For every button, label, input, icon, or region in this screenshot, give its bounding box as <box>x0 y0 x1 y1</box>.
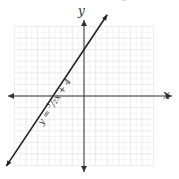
coordinate-plane <box>0 0 179 179</box>
arrow-up-icon <box>81 20 87 26</box>
x-axis-label: x <box>163 88 170 102</box>
arrow-down-icon <box>81 166 87 172</box>
arrow-left-icon <box>8 93 14 99</box>
y-axis-label: y <box>78 4 85 18</box>
corner-mark: 2 <box>122 0 127 3</box>
